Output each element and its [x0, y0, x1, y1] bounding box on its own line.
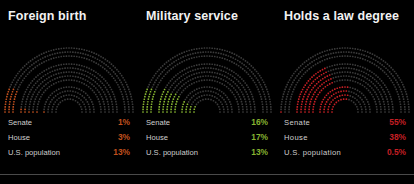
- seat-dot: [360, 49, 362, 51]
- seat-dot: [94, 75, 96, 77]
- seat-dot: [7, 91, 9, 93]
- seat-dot: [306, 98, 308, 100]
- seat-dot: [109, 96, 111, 98]
- seat-dot: [224, 75, 226, 77]
- seat-dot: [100, 65, 102, 67]
- seat-dot: [179, 71, 181, 73]
- seat-dot: [92, 56, 94, 58]
- seat-dot: [57, 93, 59, 95]
- seat-dot: [99, 60, 101, 62]
- seat-dot: [316, 58, 318, 60]
- seat-dot: [180, 57, 182, 59]
- seat-dot: [329, 97, 331, 99]
- seat-dot: [72, 99, 74, 101]
- seat-dot: [64, 75, 66, 77]
- seat-dot: [186, 77, 188, 79]
- seat-dot: [331, 108, 333, 110]
- seat-dot: [85, 111, 87, 113]
- seat-dot: [211, 47, 213, 49]
- seat-dot: [368, 74, 370, 76]
- seat-dot: [336, 64, 338, 66]
- seat-dot: [387, 63, 389, 65]
- seat-dot: [329, 74, 331, 76]
- seat-dot: [387, 101, 389, 103]
- seat-dot: [52, 106, 54, 108]
- seat-dot: [57, 69, 59, 71]
- seat-dot: [28, 62, 30, 64]
- seat-dot: [395, 79, 397, 81]
- seat-dot: [87, 80, 89, 82]
- seat-dot: [96, 96, 98, 98]
- seat-dot: [364, 86, 366, 88]
- seat-dot: [285, 86, 287, 88]
- seat-dot: [101, 76, 103, 78]
- seat-dot: [143, 103, 145, 105]
- seat-dot: [252, 67, 254, 69]
- seat-dot: [27, 73, 29, 75]
- seat-dot: [101, 96, 103, 98]
- seat-dot: [108, 93, 110, 95]
- seat-dot: [184, 60, 186, 62]
- seat-dot: [330, 70, 332, 72]
- seat-dot: [387, 89, 389, 91]
- seat-dot: [115, 73, 117, 75]
- seat-dot: [174, 96, 176, 98]
- seat-dot: [379, 103, 381, 105]
- seat-dot: [392, 111, 394, 113]
- legend-row: U.S. population13%: [8, 145, 130, 160]
- seat-dot: [236, 101, 238, 103]
- seat-dot: [53, 103, 55, 105]
- seat-dot: [28, 109, 30, 111]
- seat-dot: [209, 71, 211, 73]
- seat-dot: [297, 101, 299, 103]
- seat-dot: [335, 92, 337, 94]
- seat-dot: [53, 66, 55, 68]
- seat-dot: [193, 82, 195, 84]
- seat-dot: [317, 87, 319, 89]
- seat-dot: [88, 96, 90, 98]
- seat-dot: [387, 75, 389, 77]
- seat-dot: [241, 103, 243, 105]
- seat-dot: [123, 98, 125, 100]
- seat-dot: [83, 97, 85, 99]
- seat-dot: [308, 109, 310, 111]
- seat-dot: [361, 79, 363, 81]
- seat-dot: [25, 103, 27, 105]
- seat-dot: [26, 89, 28, 91]
- seat-dot: [192, 70, 194, 72]
- seat-dot: [224, 50, 226, 52]
- seat-dot: [334, 56, 336, 58]
- seat-dot: [113, 77, 115, 79]
- seat-dot: [251, 65, 253, 67]
- seat-dot: [311, 98, 313, 100]
- seat-dot: [232, 75, 234, 77]
- seat-dot: [160, 67, 162, 69]
- seat-dot: [68, 79, 70, 81]
- seat-dot: [158, 75, 160, 77]
- seat-dot: [204, 47, 206, 49]
- seat-dot: [68, 86, 70, 88]
- seat-dot: [186, 96, 188, 98]
- seat-dot: [105, 64, 107, 66]
- seat-dot: [375, 75, 377, 77]
- seat-dot: [201, 80, 203, 82]
- seat-dot: [305, 66, 307, 68]
- seat-dot: [96, 53, 98, 55]
- seat-dot: [89, 111, 91, 113]
- seat-dot: [41, 62, 43, 64]
- seat-dot: [254, 82, 256, 84]
- seat-dot: [91, 69, 93, 71]
- seat-dot: [114, 67, 116, 69]
- seat-dot: [216, 56, 218, 58]
- seat-dot: [14, 77, 16, 79]
- seat-dot: [380, 106, 382, 108]
- seat-dot: [38, 91, 40, 93]
- seat-dot: [77, 68, 79, 70]
- seat-dot: [154, 91, 156, 93]
- seat-dot: [245, 60, 247, 62]
- seat-dot: [91, 60, 93, 62]
- seat-dot: [52, 54, 54, 56]
- seat-dot: [193, 73, 195, 75]
- seat-dot: [227, 82, 229, 84]
- seat-dot: [116, 106, 118, 108]
